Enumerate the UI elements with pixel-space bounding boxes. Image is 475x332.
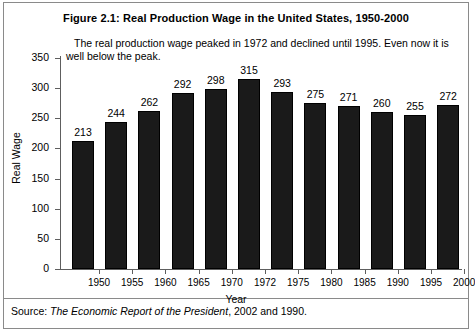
bar xyxy=(404,115,426,269)
bar-value-label: 315 xyxy=(240,64,258,76)
x-tick xyxy=(132,269,133,274)
x-tick xyxy=(232,269,233,274)
x-tick-label: 1950 xyxy=(88,277,110,288)
x-tick xyxy=(398,269,399,274)
bar-value-label: 275 xyxy=(307,88,325,100)
bar-value-label: 262 xyxy=(141,96,159,108)
y-tick xyxy=(55,179,61,180)
bar-value-label: 255 xyxy=(406,100,424,112)
figure-container: Figure 2.1: Real Production Wage in the … xyxy=(3,2,469,299)
x-axis-line xyxy=(60,269,462,270)
bar xyxy=(138,111,160,269)
x-tick-label: 1985 xyxy=(353,277,375,288)
y-tick xyxy=(55,88,61,89)
x-tick-label: 1995 xyxy=(420,277,442,288)
bar-value-label: 244 xyxy=(107,107,125,119)
bar-value-label: 272 xyxy=(439,90,457,102)
x-tick-label: 1972 xyxy=(254,277,276,288)
source-note: Source: The Economic Report of the Presi… xyxy=(11,305,307,317)
x-tick-label: 2000 xyxy=(453,277,475,288)
x-tick xyxy=(365,269,366,274)
y-tick xyxy=(55,269,61,270)
bar-value-label: 292 xyxy=(174,78,192,90)
x-tick xyxy=(165,269,166,274)
x-tick xyxy=(298,269,299,274)
bar xyxy=(72,141,94,269)
y-axis-title: Real Wage xyxy=(10,123,22,193)
bar xyxy=(437,105,459,269)
bar-value-label: 271 xyxy=(340,91,358,103)
bar xyxy=(205,89,227,269)
bar-value-label: 260 xyxy=(373,97,391,109)
y-tick xyxy=(55,239,61,240)
x-tick xyxy=(99,269,100,274)
bar xyxy=(105,122,127,269)
bar xyxy=(238,79,260,269)
x-tick-label: 1980 xyxy=(320,277,342,288)
bar xyxy=(304,103,326,269)
y-tick xyxy=(55,58,61,59)
bar-value-label: 293 xyxy=(273,77,291,89)
x-tick xyxy=(431,269,432,274)
y-tick xyxy=(55,148,61,149)
y-tick-label: 350 xyxy=(17,51,49,63)
x-tick-label: 1970 xyxy=(221,277,243,288)
bar xyxy=(338,106,360,269)
x-tick xyxy=(464,269,465,274)
x-tick-label: 1990 xyxy=(387,277,409,288)
y-tick-label: 50 xyxy=(17,232,49,244)
bar xyxy=(172,93,194,269)
source-prefix: Source: xyxy=(11,305,47,317)
bar-value-label: 213 xyxy=(74,126,92,138)
x-tick-label: 1975 xyxy=(287,277,309,288)
y-tick-label: 300 xyxy=(17,81,49,93)
y-tick-label: 250 xyxy=(17,111,49,123)
y-tick-label: 100 xyxy=(17,202,49,214)
x-tick xyxy=(331,269,332,274)
y-tick-label: 0 xyxy=(17,262,49,274)
x-tick-label: 1955 xyxy=(121,277,143,288)
y-tick xyxy=(55,209,61,210)
x-tick-label: 1960 xyxy=(154,277,176,288)
x-tick xyxy=(265,269,266,274)
y-tick xyxy=(55,118,61,119)
x-tick-label: 1965 xyxy=(187,277,209,288)
bar xyxy=(371,112,393,269)
bar-chart: 050100150200250300350 213244262292298315… xyxy=(3,2,469,299)
x-axis-title: Year xyxy=(3,293,469,305)
bar xyxy=(271,92,293,269)
x-tick xyxy=(199,269,200,274)
source-suffix: , 2002 and 1990. xyxy=(228,305,307,317)
source-publication-title: The Economic Report of the President xyxy=(50,305,228,317)
bar-value-label: 298 xyxy=(207,74,225,86)
